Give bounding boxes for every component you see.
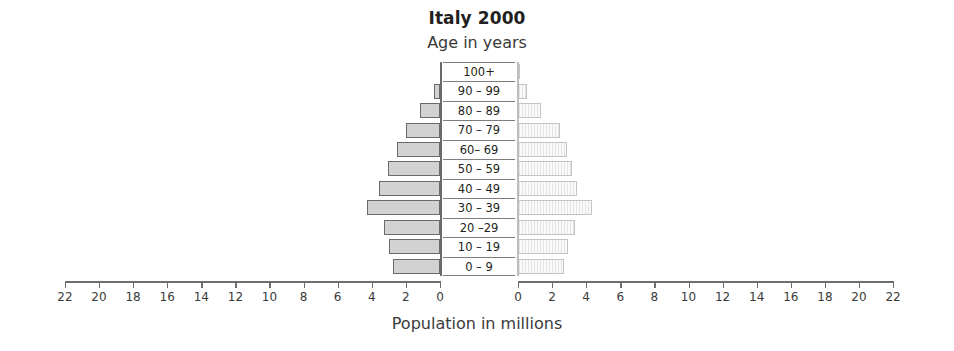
pyramid-row: 60– 69 <box>0 140 954 159</box>
axis-tick <box>167 281 168 288</box>
axis-tick-label: 12 <box>708 290 738 304</box>
axis-tick <box>791 281 792 288</box>
axis-tick <box>689 281 690 288</box>
axis-tick-label: 14 <box>742 290 772 304</box>
age-band-label: 50 – 59 <box>443 159 515 178</box>
age-band-label: 100+ <box>443 62 515 81</box>
pyramid-row: 50 – 59 <box>0 159 954 178</box>
age-band-label: 20 –29 <box>443 218 515 237</box>
age-band-label: 30 – 39 <box>443 198 515 217</box>
axis-tick-label: 10 <box>254 290 284 304</box>
axis-tick <box>235 281 236 288</box>
axis-tick-label: 16 <box>776 290 806 304</box>
axis-tick <box>893 281 894 288</box>
left-value-axis: 2220181614121086420 <box>65 281 440 311</box>
axis-tick-label: 8 <box>289 290 319 304</box>
bar-left <box>367 200 440 215</box>
axis-tick <box>518 281 519 288</box>
axis-tick-label: 20 <box>844 290 874 304</box>
pyramid-row: 0 – 9 <box>0 257 954 276</box>
axis-line <box>65 281 440 283</box>
bar-left <box>379 181 440 196</box>
bar-left <box>384 220 440 235</box>
axis-tick-label: 6 <box>323 290 353 304</box>
axis-tick <box>825 281 826 288</box>
axis-tick <box>723 281 724 288</box>
pyramid-row: 100+ <box>0 62 954 81</box>
bar-left <box>397 142 440 157</box>
bar-right <box>518 200 592 215</box>
bar-right <box>518 161 572 176</box>
axis-tick <box>99 281 100 288</box>
axis-tick <box>372 281 373 288</box>
axis-tick-label: 4 <box>571 290 601 304</box>
plot-area: 100+90 – 9980 – 8970 – 7960– 6950 – 5940… <box>0 62 954 276</box>
pyramid-row: 90 – 99 <box>0 81 954 100</box>
age-band-label: 90 – 99 <box>443 81 515 100</box>
axis-tick-label: 10 <box>674 290 704 304</box>
axis-tick-label: 14 <box>186 290 216 304</box>
axis-tick <box>757 281 758 288</box>
left-axis-baseline <box>440 62 442 276</box>
bar-right <box>518 123 560 138</box>
pyramid-row: 80 – 89 <box>0 101 954 120</box>
chart-title: Italy 2000 <box>0 8 954 28</box>
bar-right <box>518 239 568 254</box>
pyramid-row: 70 – 79 <box>0 120 954 139</box>
chart-subtitle: Age in years <box>0 33 954 52</box>
bar-left <box>420 103 440 118</box>
bar-right <box>518 84 527 99</box>
axis-tick-label: 8 <box>639 290 669 304</box>
axis-line <box>518 281 893 283</box>
axis-tick <box>654 281 655 288</box>
bar-left <box>406 123 440 138</box>
axis-tick <box>65 281 66 288</box>
axis-tick <box>406 281 407 288</box>
axis-tick-label: 0 <box>503 290 533 304</box>
axis-tick <box>269 281 270 288</box>
axis-tick <box>620 281 621 288</box>
axis-tick-label: 2 <box>391 290 421 304</box>
population-pyramid-chart: Italy 2000 Age in years 100+90 – 9980 – … <box>0 0 954 351</box>
axis-tick <box>201 281 202 288</box>
bar-right <box>518 181 577 196</box>
age-band-label: 70 – 79 <box>443 120 515 139</box>
axis-tick-label: 22 <box>50 290 80 304</box>
axis-tick <box>859 281 860 288</box>
age-band-label: 0 – 9 <box>443 257 515 276</box>
x-axis-label: Population in millions <box>0 314 954 333</box>
axis-tick-label: 18 <box>810 290 840 304</box>
axis-tick-label: 20 <box>84 290 114 304</box>
axis-tick-label: 18 <box>118 290 148 304</box>
bar-left <box>389 239 440 254</box>
axis-tick-label: 4 <box>357 290 387 304</box>
axis-tick-label: 2 <box>537 290 567 304</box>
age-band-label: 10 – 19 <box>443 237 515 256</box>
pyramid-row: 10 – 19 <box>0 237 954 256</box>
pyramid-row: 30 – 39 <box>0 198 954 217</box>
pyramid-row: 40 – 49 <box>0 179 954 198</box>
bar-right <box>518 220 575 235</box>
axis-tick <box>440 281 441 288</box>
axis-tick-label: 16 <box>152 290 182 304</box>
bar-right <box>518 142 567 157</box>
axis-tick <box>586 281 587 288</box>
axis-tick <box>552 281 553 288</box>
age-band-label: 60– 69 <box>443 140 515 159</box>
axis-tick <box>338 281 339 288</box>
right-axis-baseline <box>517 62 519 276</box>
bar-left <box>393 259 440 274</box>
right-value-axis: 0246810121416182022 <box>518 281 893 311</box>
axis-tick <box>133 281 134 288</box>
pyramid-row: 20 –29 <box>0 218 954 237</box>
axis-tick-label: 22 <box>878 290 908 304</box>
bar-left <box>388 161 440 176</box>
bar-right <box>518 259 564 274</box>
age-band-label: 80 – 89 <box>443 101 515 120</box>
age-band-label: 40 – 49 <box>443 179 515 198</box>
bar-right <box>518 103 541 118</box>
axis-tick-label: 6 <box>605 290 635 304</box>
axis-tick-label: 12 <box>220 290 250 304</box>
axis-tick-label: 0 <box>425 290 455 304</box>
axis-tick <box>304 281 305 288</box>
